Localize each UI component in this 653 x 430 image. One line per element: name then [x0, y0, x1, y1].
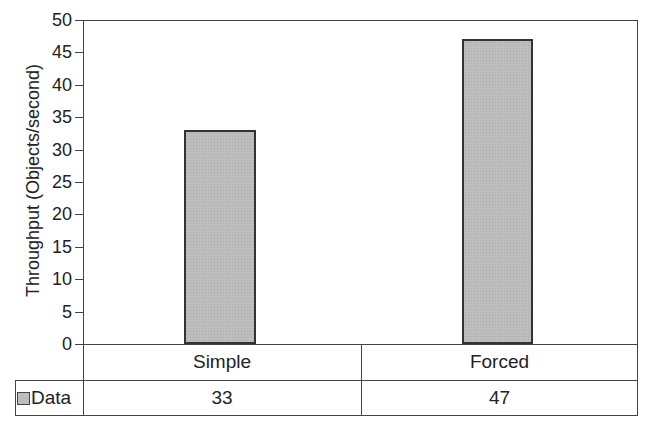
y-tick: [75, 52, 83, 53]
y-tick: [75, 279, 83, 280]
y-tick-label: 5: [32, 303, 72, 321]
y-tick-label: 30: [32, 141, 72, 159]
y-tick-label: 15: [32, 238, 72, 256]
y-tick-label: 50: [32, 11, 72, 29]
legend-swatch-icon: [17, 392, 30, 405]
y-tick: [75, 312, 83, 313]
y-tick: [75, 20, 83, 21]
y-tick-label: 20: [32, 205, 72, 223]
y-tick-label: 40: [32, 76, 72, 94]
bar-forced: [462, 39, 533, 344]
y-tick: [75, 214, 83, 215]
category-label-forced: Forced: [361, 351, 638, 373]
table-bottom-line: [15, 415, 638, 416]
legend-label: Data: [31, 387, 71, 408]
y-tick: [75, 117, 83, 118]
y-tick: [75, 150, 83, 151]
y-tick: [75, 344, 83, 345]
y-tick: [75, 85, 83, 86]
y-tick: [75, 247, 83, 248]
plot-area: [83, 20, 638, 344]
y-tick-label: 45: [32, 43, 72, 61]
legend-entry: Data: [17, 387, 83, 409]
table-row-line: [15, 380, 638, 381]
data-value-simple: 33: [83, 387, 361, 409]
y-tick-label: 35: [32, 108, 72, 126]
y-tick-label: 10: [32, 270, 72, 288]
bar-simple: [184, 130, 256, 344]
table-divider: [15, 380, 16, 416]
y-tick: [75, 182, 83, 183]
category-label-simple: Simple: [83, 351, 361, 373]
data-value-forced: 47: [361, 387, 638, 409]
y-tick-label: 25: [32, 173, 72, 191]
y-tick-label: 0: [32, 335, 72, 353]
